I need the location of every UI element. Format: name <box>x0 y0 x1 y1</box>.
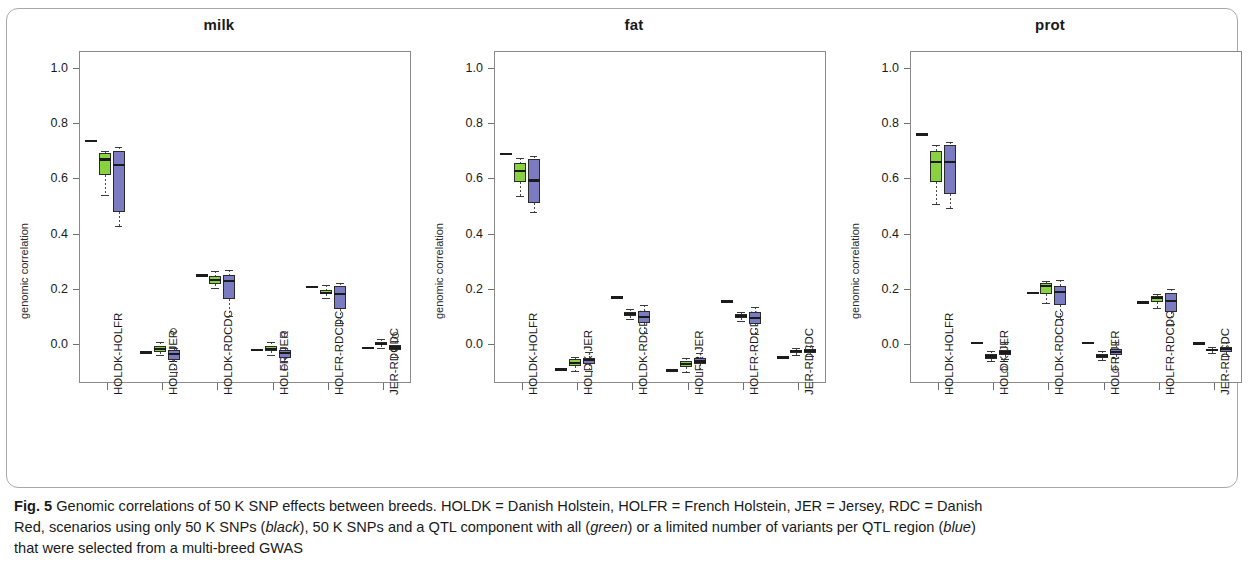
green-scenario-median <box>1206 349 1218 351</box>
black-scenario-marker <box>196 274 208 277</box>
blue-scenario-whisker-lower <box>1060 305 1061 319</box>
green-scenario-cap-lower <box>156 355 164 356</box>
x-tick-mark <box>1104 383 1105 390</box>
blue-scenario-cap-lower <box>336 323 344 324</box>
y-tick-mark <box>488 68 494 69</box>
x-tick-label-holdk-holfr: HOLDK-HOLFR <box>112 313 124 395</box>
blue-scenario-whisker-lower <box>700 364 701 371</box>
blue-scenario-median <box>999 351 1011 353</box>
green-scenario-cap-upper <box>211 271 219 272</box>
x-tick-mark <box>798 383 799 390</box>
y-tick-label: 0.2 <box>51 282 68 296</box>
plot-area-prot <box>910 51 1242 383</box>
caption-line2-d: ) <box>971 519 976 535</box>
y-tick-label: 0.8 <box>51 116 68 130</box>
y-axis-label: genomic correlation <box>433 223 445 319</box>
blue-scenario-cap-upper <box>115 147 123 148</box>
blue-scenario-cap-lower <box>1222 356 1230 357</box>
green-scenario-median <box>569 362 581 364</box>
y-tick-mark <box>73 344 79 345</box>
x-tick-mark <box>162 383 163 390</box>
green-scenario-cap-upper <box>267 342 275 343</box>
y-tick-mark <box>488 178 494 179</box>
blue-scenario-whisker-lower <box>950 194 951 208</box>
plot-area-milk <box>79 51 411 383</box>
panel-title-prot: prot <box>845 16 1249 33</box>
x-tick-mark <box>383 383 384 390</box>
caption-line3: that were selected from a multi-breed GW… <box>14 540 303 556</box>
green-scenario-cap-lower <box>267 355 275 356</box>
blue-scenario-whisker-upper <box>1005 342 1006 350</box>
blue-scenario-median <box>279 352 291 354</box>
blue-scenario-median <box>1110 351 1122 353</box>
green-scenario-median <box>320 292 332 294</box>
green-scenario-cap-upper <box>626 309 634 310</box>
blue-scenario-cap-upper <box>225 270 233 271</box>
blue-scenario-whisker-lower <box>1171 312 1172 324</box>
blue-scenario-median <box>638 316 650 318</box>
blue-scenario-median <box>334 293 346 295</box>
y-axis-label: genomic correlation <box>18 223 30 319</box>
blue-scenario-cap-lower <box>806 356 814 357</box>
y-tick-label: 0.6 <box>882 171 899 185</box>
blue-scenario-median <box>1054 291 1066 293</box>
green-scenario-cap-lower <box>1042 303 1050 304</box>
caption-line1: Genomic correlations of 50 K SNP effects… <box>56 498 982 514</box>
green-scenario-median <box>154 348 166 350</box>
green-scenario-cap-upper <box>792 348 800 349</box>
green-scenario-cap-lower <box>1208 353 1216 354</box>
green-scenario-cap-upper <box>101 151 109 152</box>
green-scenario-cap-lower <box>211 288 219 289</box>
y-tick-label: 1.0 <box>51 61 68 75</box>
blue-scenario-cap-lower <box>946 208 954 209</box>
green-scenario-cap-upper <box>322 285 330 286</box>
green-scenario-whisker-lower <box>936 182 937 203</box>
y-tick-mark <box>488 123 494 124</box>
green-scenario-median <box>265 348 277 350</box>
blue-scenario-cap-lower <box>530 212 538 213</box>
blue-scenario-cap-lower <box>1112 358 1120 359</box>
green-scenario-median <box>514 170 526 172</box>
y-tick-mark <box>904 289 910 290</box>
figure-caption: Fig. 5 Genomic correlations of 50 K SNP … <box>14 496 1239 559</box>
blue-scenario-outlier <box>281 364 288 371</box>
green-scenario-median <box>1096 355 1108 357</box>
caption-line2-c: ) or a limited number of variants per QT… <box>628 519 944 535</box>
blue-scenario-whisker-lower <box>174 360 175 372</box>
blue-scenario-cap-lower <box>696 372 704 373</box>
y-tick-mark <box>904 344 910 345</box>
y-tick-mark <box>73 178 79 179</box>
black-scenario-marker <box>500 153 512 156</box>
y-tick-label: 0.0 <box>466 337 483 351</box>
green-scenario-median <box>930 161 942 163</box>
blue-scenario-cap-lower <box>1056 319 1064 320</box>
x-tick-label-jer-rdcdc: JER-RDCDC <box>803 328 815 395</box>
green-scenario-cap-upper <box>987 351 995 352</box>
x-tick-label-holdk-holfr: HOLDK-HOLFR <box>943 313 955 395</box>
y-tick-label: 0.4 <box>882 227 899 241</box>
blue-scenario-cap-upper <box>696 353 704 354</box>
y-tick-label: 0.4 <box>466 227 483 241</box>
green-scenario-median <box>1151 297 1163 299</box>
y-tick-mark <box>488 234 494 235</box>
y-tick-label: 0.2 <box>466 282 483 296</box>
green-scenario-whisker-lower <box>520 182 521 196</box>
green-scenario-cap-lower <box>1153 308 1161 309</box>
blue-scenario-box <box>113 151 125 213</box>
y-tick-label: 0.6 <box>466 171 483 185</box>
y-tick-mark <box>904 68 910 69</box>
y-tick-label: 0.4 <box>51 227 68 241</box>
blue-scenario-median <box>583 359 595 361</box>
panel-title-fat: fat <box>429 16 839 33</box>
black-scenario-marker <box>306 286 318 289</box>
blue-scenario-cap-lower <box>1167 324 1175 325</box>
green-scenario-cap-upper <box>1098 351 1106 352</box>
green-scenario-cap-upper <box>377 339 385 340</box>
panel-prot: protgenomic correlation0.00.20.40.60.81.… <box>845 8 1249 478</box>
green-scenario-median <box>1040 285 1052 287</box>
green-scenario-box <box>930 151 942 183</box>
green-scenario-median <box>624 313 636 315</box>
green-scenario-cap-upper <box>932 145 940 146</box>
y-tick-mark <box>488 344 494 345</box>
blue-scenario-cap-upper <box>946 142 954 143</box>
